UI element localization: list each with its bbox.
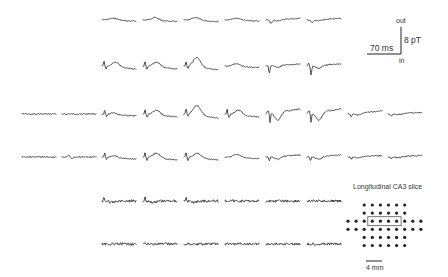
sensor-trace	[143, 197, 177, 204]
sensor-trace	[348, 111, 382, 117]
sensor-trace	[143, 153, 177, 161]
sensor-dot	[363, 212, 366, 215]
sensor-trace	[184, 197, 218, 203]
sensor-trace	[143, 62, 177, 69]
sensor-dot	[379, 228, 382, 231]
sensor-trace	[266, 243, 300, 245]
sensor-trace	[225, 18, 259, 22]
polarity-in-label: in	[399, 57, 404, 64]
sensor-dot	[346, 220, 349, 223]
sensor-trace	[184, 153, 218, 161]
sensor-dot	[371, 203, 374, 206]
sensor-dot	[355, 220, 358, 223]
sensor-trace	[184, 243, 218, 246]
sensor-dot	[403, 203, 406, 206]
sensor-trace	[225, 109, 259, 117]
trace-grid	[22, 17, 422, 245]
sensor-dot	[419, 228, 422, 231]
sensor-trace	[307, 109, 341, 123]
sensor-trace	[266, 155, 300, 161]
sensor-trace	[307, 63, 341, 75]
sensor-trace	[266, 18, 300, 23]
sensor-dot	[387, 244, 390, 247]
sensor-dot	[371, 244, 374, 247]
sensor-dot	[403, 220, 406, 223]
sensor-trace	[307, 243, 341, 246]
sensor-dot	[395, 220, 398, 223]
sensor-trace	[225, 200, 259, 203]
sensor-dot	[419, 220, 422, 223]
sensor-trace	[184, 57, 218, 70]
sensor-trace	[225, 63, 259, 67]
sensor-trace	[388, 112, 422, 116]
sensor-dot	[363, 236, 366, 239]
sensor-trace	[22, 114, 56, 115]
panel-title: Longitudinal CA3 slice	[353, 183, 422, 190]
sensor-dot	[395, 244, 398, 247]
sensor-dot	[403, 236, 406, 239]
figure-canvas	[0, 0, 448, 277]
sensor-dot	[403, 244, 406, 247]
sensor-trace	[184, 105, 218, 118]
sensor-dot	[379, 236, 382, 239]
sensor-dot	[363, 220, 366, 223]
sensor-dot	[363, 244, 366, 247]
sensor-trace	[143, 110, 177, 117]
sensor-trace	[307, 155, 341, 161]
sensor-dot	[371, 220, 374, 223]
amplitude-label: 8 pT	[404, 36, 421, 45]
sensor-dot	[363, 203, 366, 206]
sensor-trace	[225, 154, 259, 159]
sensor-dot	[379, 220, 382, 223]
sensor-dot	[355, 228, 358, 231]
sensor-trace	[102, 18, 136, 22]
sensor-trace	[266, 200, 300, 202]
sensor-dot	[379, 203, 382, 206]
sensor-dot	[387, 236, 390, 239]
sensor-trace	[62, 114, 96, 115]
sensor-array-diagram	[346, 203, 422, 247]
sensor-trace	[102, 110, 136, 116]
sensor-dot	[371, 228, 374, 231]
array-scale-label: 4 mm	[366, 264, 384, 271]
sensor-trace	[102, 243, 136, 246]
sensor-dot	[387, 228, 390, 231]
sensor-dot	[379, 212, 382, 215]
sensor-dot	[403, 212, 406, 215]
sensor-trace	[143, 243, 177, 246]
sensor-dot	[411, 220, 414, 223]
sensor-trace	[102, 61, 136, 69]
sensor-trace	[143, 17, 177, 22]
time-label: 70 ms	[370, 44, 393, 53]
sensor-trace	[22, 157, 56, 158]
sensor-trace	[102, 198, 136, 204]
sensor-trace	[348, 155, 382, 159]
sensor-dot	[395, 228, 398, 231]
sensor-dot	[387, 203, 390, 206]
sensor-trace	[388, 155, 422, 159]
sensor-trace	[266, 64, 300, 73]
sensor-dot	[379, 244, 382, 247]
sensor-dot	[371, 236, 374, 239]
sensor-trace	[184, 17, 218, 22]
sensor-dot	[403, 228, 406, 231]
sensor-dot	[363, 228, 366, 231]
sensor-trace	[266, 109, 300, 123]
sensor-trace	[62, 155, 96, 159]
sensor-trace	[225, 243, 259, 245]
sensor-dot	[395, 203, 398, 206]
sensor-dot	[371, 212, 374, 215]
sensor-dot	[395, 236, 398, 239]
sensor-dot	[346, 228, 349, 231]
sensor-dot	[387, 220, 390, 223]
sensor-trace	[307, 18, 341, 23]
sensor-trace	[307, 200, 341, 202]
sensor-dot	[411, 228, 414, 231]
polarity-out-label: out	[396, 17, 406, 24]
sensor-dot	[395, 212, 398, 215]
sensor-trace	[102, 153, 136, 160]
sensor-dot	[387, 212, 390, 215]
